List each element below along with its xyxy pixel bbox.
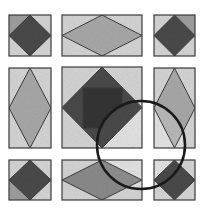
tile-grid-svg xyxy=(0,0,203,211)
tile-middle-left xyxy=(9,68,51,148)
tile-top-middle xyxy=(62,15,142,56)
tile-top-left xyxy=(9,15,51,56)
tile-top-right xyxy=(154,15,195,56)
tile-bottom-left xyxy=(9,160,51,200)
tile-pattern-figure xyxy=(0,0,203,211)
